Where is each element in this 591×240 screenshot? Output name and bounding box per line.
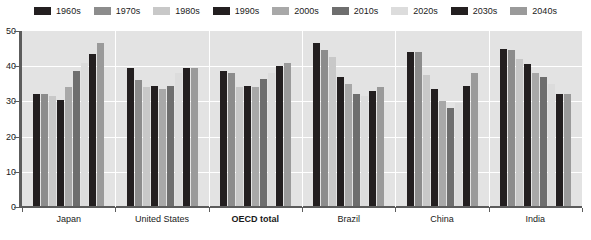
y-axis-tick bbox=[14, 31, 19, 32]
legend-item[interactable]: 2000s bbox=[272, 6, 319, 16]
x-axis-line bbox=[19, 206, 582, 208]
bar[interactable] bbox=[268, 73, 275, 207]
legend-item[interactable]: 1990s bbox=[213, 6, 260, 16]
bar[interactable] bbox=[423, 75, 430, 207]
bar[interactable] bbox=[321, 50, 328, 207]
legend-item[interactable]: 1960s bbox=[34, 6, 81, 16]
bar[interactable] bbox=[228, 73, 235, 207]
bar[interactable] bbox=[127, 68, 134, 207]
bar[interactable] bbox=[167, 86, 174, 207]
y-axis-tick bbox=[14, 66, 19, 67]
bar[interactable] bbox=[244, 86, 251, 207]
bar[interactable] bbox=[97, 43, 104, 207]
bar[interactable] bbox=[183, 68, 190, 207]
legend-swatch-icon bbox=[153, 7, 170, 15]
bar[interactable] bbox=[159, 89, 166, 207]
bar[interactable] bbox=[220, 71, 227, 207]
bar[interactable] bbox=[49, 96, 56, 207]
legend-item[interactable]: 1970s bbox=[94, 6, 141, 16]
legend-item[interactable]: 1980s bbox=[153, 6, 200, 16]
group-separator bbox=[302, 31, 303, 207]
legend-item[interactable]: 2020s bbox=[391, 6, 438, 16]
x-axis-category-label: China bbox=[430, 214, 454, 225]
plot-inner bbox=[22, 31, 582, 207]
bar[interactable] bbox=[447, 108, 454, 207]
x-axis-category-label: United States bbox=[135, 214, 189, 225]
y-axis-tick bbox=[14, 172, 19, 173]
bar[interactable] bbox=[236, 87, 243, 207]
bar[interactable] bbox=[337, 77, 344, 207]
bar[interactable] bbox=[439, 101, 446, 207]
bar[interactable] bbox=[191, 68, 198, 207]
bar[interactable] bbox=[540, 77, 547, 207]
legend-item-label: 1980s bbox=[175, 6, 200, 16]
bar[interactable] bbox=[175, 73, 182, 207]
bar[interactable] bbox=[415, 52, 422, 207]
bar[interactable] bbox=[33, 94, 40, 207]
bar[interactable] bbox=[57, 100, 64, 207]
bar[interactable] bbox=[516, 59, 523, 207]
bar[interactable] bbox=[524, 64, 531, 207]
x-axis-tick bbox=[22, 208, 23, 212]
legend-item-label: 2010s bbox=[354, 6, 379, 16]
bar[interactable] bbox=[41, 94, 48, 207]
bar-group bbox=[500, 31, 571, 207]
legend-item-label: 2000s bbox=[294, 6, 319, 16]
legend-swatch-icon bbox=[332, 7, 349, 15]
bar[interactable] bbox=[353, 94, 360, 207]
bar-group bbox=[127, 31, 198, 207]
legend-swatch-icon bbox=[213, 7, 230, 15]
bar[interactable] bbox=[73, 71, 80, 207]
legend-item[interactable]: 2010s bbox=[332, 6, 379, 16]
bar[interactable] bbox=[329, 57, 336, 207]
bar[interactable] bbox=[377, 87, 384, 207]
bar[interactable] bbox=[151, 86, 158, 207]
legend-swatch-icon bbox=[391, 7, 408, 15]
legend-item-label: 1960s bbox=[56, 6, 81, 16]
bar[interactable] bbox=[508, 50, 515, 207]
bar[interactable] bbox=[313, 43, 320, 207]
bar[interactable] bbox=[143, 87, 150, 207]
bar[interactable] bbox=[135, 80, 142, 207]
x-axis-tick bbox=[582, 208, 583, 212]
bar[interactable] bbox=[564, 94, 571, 207]
bar[interactable] bbox=[284, 63, 291, 207]
bar[interactable] bbox=[431, 89, 438, 207]
bar-group bbox=[313, 31, 384, 207]
legend-item-label: 2040s bbox=[532, 6, 557, 16]
y-axis-tick bbox=[14, 137, 19, 138]
x-axis-tick bbox=[302, 208, 303, 212]
bar[interactable] bbox=[252, 87, 259, 207]
legend-item[interactable]: 2040s bbox=[510, 6, 557, 16]
bar[interactable] bbox=[463, 86, 470, 207]
bar[interactable] bbox=[556, 94, 563, 207]
bar[interactable] bbox=[89, 54, 96, 207]
bar[interactable] bbox=[276, 66, 283, 207]
bar[interactable] bbox=[260, 79, 267, 207]
bar[interactable] bbox=[548, 84, 555, 207]
plot-area bbox=[22, 31, 582, 207]
legend-item-label: 1990s bbox=[235, 6, 260, 16]
bar[interactable] bbox=[532, 73, 539, 207]
bar[interactable] bbox=[407, 52, 414, 207]
bar[interactable] bbox=[369, 91, 376, 207]
legend-item-label: 2020s bbox=[413, 6, 438, 16]
group-separator bbox=[209, 31, 210, 207]
bar[interactable] bbox=[455, 103, 462, 207]
bar[interactable] bbox=[345, 84, 352, 207]
y-axis-labels: 50403020100 bbox=[0, 0, 16, 240]
x-axis-tick bbox=[209, 208, 210, 212]
legend-item-label: 2030s bbox=[473, 6, 498, 16]
legend-swatch-icon bbox=[34, 7, 51, 15]
legend-swatch-icon bbox=[272, 7, 289, 15]
bar[interactable] bbox=[500, 49, 507, 207]
group-separator bbox=[115, 31, 116, 207]
bar[interactable] bbox=[81, 63, 88, 207]
group-separator bbox=[395, 31, 396, 207]
bar[interactable] bbox=[471, 73, 478, 207]
x-axis-category-label: OECD total bbox=[232, 214, 280, 225]
x-axis-category-label: India bbox=[526, 214, 546, 225]
bar[interactable] bbox=[361, 96, 368, 207]
legend-item[interactable]: 2030s bbox=[451, 6, 498, 16]
bar[interactable] bbox=[65, 87, 72, 207]
